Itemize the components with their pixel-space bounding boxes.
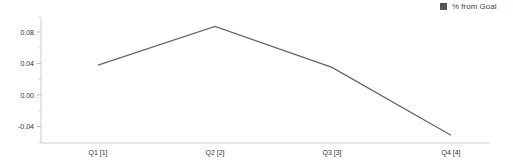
- x-ticks: Q1 [1]Q2 [2]Q3 [3]Q4 [4]: [88, 149, 460, 157]
- y-tick-label: 0.00: [20, 92, 34, 99]
- x-tick-label: Q4 [4]: [441, 149, 460, 157]
- x-tick-label: Q3 [3]: [322, 149, 341, 157]
- y-tick-label: 0.04: [20, 60, 34, 67]
- x-tick-label: Q1 [1]: [88, 149, 107, 157]
- series-line-percent-from-goal: [98, 27, 451, 136]
- line-chart: 0.080.040.00-0.04 Q1 [1]Q2 [2]Q3 [3]Q4 […: [0, 0, 513, 163]
- y-tick-label: 0.08: [20, 29, 34, 36]
- y-tick-label: -0.04: [18, 123, 34, 130]
- x-tick-label: Q2 [2]: [205, 149, 224, 157]
- y-ticks: 0.080.040.00-0.04: [18, 17, 41, 142]
